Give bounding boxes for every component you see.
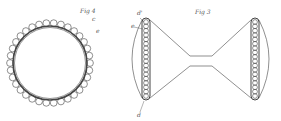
figure-3-title: Fig 3 bbox=[194, 8, 211, 16]
hourglass-top bbox=[150, 20, 251, 56]
bead bbox=[71, 92, 78, 99]
right-arc bbox=[259, 20, 269, 98]
label-e-fig3: e bbox=[131, 22, 135, 29]
left-beads bbox=[144, 20, 149, 99]
left-arc bbox=[132, 20, 142, 98]
ring-outer bbox=[13, 26, 87, 100]
bead bbox=[17, 33, 24, 40]
bead bbox=[76, 33, 83, 40]
bead bbox=[81, 39, 88, 46]
bead-ring bbox=[7, 20, 94, 106]
bead bbox=[71, 28, 78, 35]
label-d-prime: d' bbox=[137, 9, 143, 16]
figure-4-title: Fig 4 bbox=[79, 7, 96, 15]
leader-d bbox=[140, 101, 144, 112]
bead bbox=[81, 81, 88, 88]
figure-4: Fig 4 c e bbox=[7, 7, 100, 106]
patent-drawing: Fig 4 c e Fig 3 d' e d bbox=[0, 0, 281, 121]
bead bbox=[29, 95, 36, 102]
ring-inner bbox=[15, 28, 86, 99]
bead bbox=[17, 87, 24, 94]
bead bbox=[29, 24, 36, 31]
bead bbox=[64, 24, 71, 31]
bead bbox=[13, 81, 20, 88]
hourglass-bottom bbox=[150, 66, 251, 98]
bead bbox=[76, 87, 83, 94]
figure-3: Fig 3 d' e d bbox=[131, 8, 269, 118]
bead bbox=[22, 28, 29, 35]
bead bbox=[22, 92, 29, 99]
bead bbox=[64, 95, 71, 102]
label-d: d bbox=[137, 111, 141, 118]
right-beads bbox=[253, 20, 258, 99]
label-e: e bbox=[96, 27, 100, 34]
label-c: c bbox=[92, 15, 96, 22]
bead bbox=[13, 39, 20, 46]
